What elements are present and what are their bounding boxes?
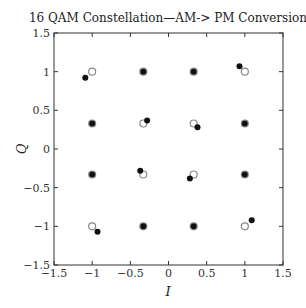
x-tick-label: −0.5 xyxy=(117,267,144,280)
received-point-marker xyxy=(191,69,197,75)
constellation-chart: 16 QAM Constellation—AM-> PM Conversion … xyxy=(0,0,306,308)
y-tick-label: 0 xyxy=(43,143,50,156)
received-point-marker xyxy=(137,168,143,174)
ideal-point-marker xyxy=(241,223,248,230)
y-tick-label: −0.5 xyxy=(23,182,50,195)
received-point-marker xyxy=(140,223,146,229)
x-tick-label: 0 xyxy=(165,267,172,280)
received-point-marker xyxy=(195,124,201,130)
received-point-marker xyxy=(95,229,101,235)
chart-title: 16 QAM Constellation—AM-> PM Conversion xyxy=(29,11,306,25)
ideal-point-marker xyxy=(241,68,248,75)
y-tick-label: 0.5 xyxy=(33,104,51,117)
received-point-marker xyxy=(249,217,255,223)
x-axis-ticks: −1.5−1−0.500.511.5 xyxy=(41,33,292,280)
received-point-marker xyxy=(82,75,88,81)
received-point-marker xyxy=(89,172,95,178)
y-tick-label: 1 xyxy=(43,66,50,79)
received-point-marker xyxy=(191,223,197,229)
ideal-point-marker xyxy=(89,68,96,75)
data-points xyxy=(82,63,254,234)
x-tick-label: 1 xyxy=(241,267,248,280)
received-point-marker xyxy=(242,172,248,178)
received-point-marker xyxy=(140,69,146,75)
y-tick-label: −1.5 xyxy=(23,259,50,272)
y-tick-label: 1.5 xyxy=(33,27,51,40)
x-tick-label: −1 xyxy=(84,267,100,280)
x-axis-label: I xyxy=(164,284,171,299)
received-point-marker xyxy=(89,120,95,126)
y-axis-label: Q xyxy=(14,143,29,154)
y-axis-ticks: −1.5−1−0.500.511.5 xyxy=(23,27,283,272)
x-tick-label: 0.5 xyxy=(198,267,216,280)
plot-frame xyxy=(54,33,283,265)
x-tick-label: 1.5 xyxy=(274,267,292,280)
received-point-marker xyxy=(242,120,248,126)
received-point-marker xyxy=(144,117,150,123)
y-tick-label: −1 xyxy=(34,220,50,233)
received-point-marker xyxy=(236,63,242,69)
ideal-point-marker xyxy=(89,223,96,230)
received-point-marker xyxy=(187,175,193,181)
